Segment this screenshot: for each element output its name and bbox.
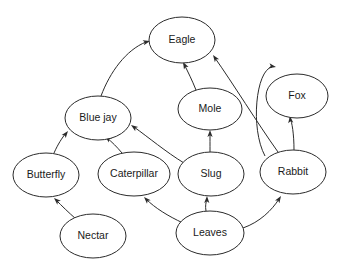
edge-line [290, 118, 294, 150]
node-butterfly[interactable]: Butterfly [13, 153, 79, 197]
edge-rabbit-to-fox [287, 116, 294, 150]
node-eagle[interactable]: Eagle [149, 17, 215, 63]
edge-line [107, 138, 122, 153]
node-fox[interactable]: Fox [266, 74, 328, 118]
edge-leaves-to-slug [204, 196, 209, 211]
edge-line [101, 42, 146, 96]
edge-line [146, 199, 183, 223]
node-label: Eagle [169, 33, 196, 45]
food-web-diagram: EagleFoxMoleBlue jayButterflyCaterpillar… [0, 0, 340, 269]
arrowhead-icon [130, 123, 139, 131]
node-label: Nectar [78, 229, 109, 241]
node-layer: EagleFoxMoleBlue jayButterflyCaterpillar… [13, 17, 328, 258]
edge-leaves-to-caterpillar [142, 195, 183, 223]
node-label: Blue jay [79, 111, 117, 123]
edge-line [56, 200, 76, 219]
edge-bluejay-to-eagle [101, 38, 151, 96]
node-label: Rabbit [278, 165, 308, 177]
arrowhead-icon [269, 63, 277, 69]
edge-line [256, 67, 272, 156]
node-leaves[interactable]: Leaves [176, 211, 244, 255]
edge-line [243, 199, 279, 228]
food-web-canvas: EagleFoxMoleBlue jayButterflyCaterpillar… [0, 0, 340, 269]
edge-slug-to-mole [207, 130, 212, 152]
node-label: Butterfly [27, 168, 66, 180]
node-label: Fox [288, 89, 306, 101]
node-nectar[interactable]: Nectar [60, 214, 126, 258]
arrowhead-icon [275, 195, 283, 204]
edge-line [54, 133, 66, 153]
edge-nectar-to-butterfly [52, 196, 76, 219]
node-label: Mole [199, 102, 222, 114]
edge-line [184, 64, 196, 90]
edge-mole-to-eagle [181, 61, 196, 90]
node-rabbit[interactable]: Rabbit [260, 150, 326, 194]
node-label: Slug [200, 167, 221, 179]
node-slug[interactable]: Slug [178, 152, 244, 196]
edge-leaves-to-rabbit [243, 195, 283, 228]
node-label: Caterpillar [110, 167, 158, 179]
node-caterpillar[interactable]: Caterpillar [98, 152, 170, 196]
arrowhead-icon [204, 196, 209, 203]
node-bluejay[interactable]: Blue jay [65, 96, 131, 140]
edge-butterfly-to-bluejay [54, 129, 70, 153]
arrowhead-icon [211, 54, 219, 63]
node-label: Leaves [193, 226, 227, 238]
node-mole[interactable]: Mole [178, 88, 242, 130]
